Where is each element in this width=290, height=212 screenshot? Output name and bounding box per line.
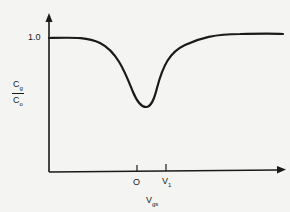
y-label-denominator: Co [13,95,23,105]
x-axis-label: Vgs [146,196,158,207]
x-axis [49,170,278,172]
fraction-bar [12,93,24,94]
x-tick-label-o: O [133,178,140,187]
y-label-numerator: Cg [13,79,23,89]
x-axis-arrow-icon [277,166,286,174]
y-axis-arrow-icon [46,13,53,22]
x-tick-label-v1: V1 [162,177,171,188]
y-tick-label: 1.0 [28,33,41,42]
data-curve [49,34,283,107]
y-axis-label: Cg Co [11,80,25,107]
chart-plot [0,0,290,212]
